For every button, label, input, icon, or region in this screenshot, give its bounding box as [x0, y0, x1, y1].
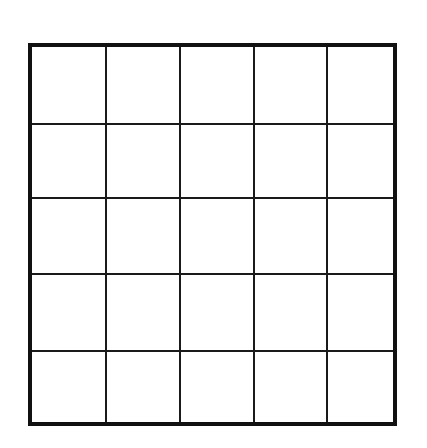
grid-row-line-3: [32, 273, 393, 275]
empty-5x5-grid: [28, 43, 397, 426]
grid-row-line-4: [32, 350, 393, 352]
grid-column-line-2: [179, 47, 181, 422]
grid-column-line-3: [253, 47, 255, 422]
grid-column-line-4: [326, 47, 328, 422]
grid-row-line-2: [32, 197, 393, 199]
grid-row-line-1: [32, 123, 393, 125]
grid-column-line-1: [105, 47, 107, 422]
